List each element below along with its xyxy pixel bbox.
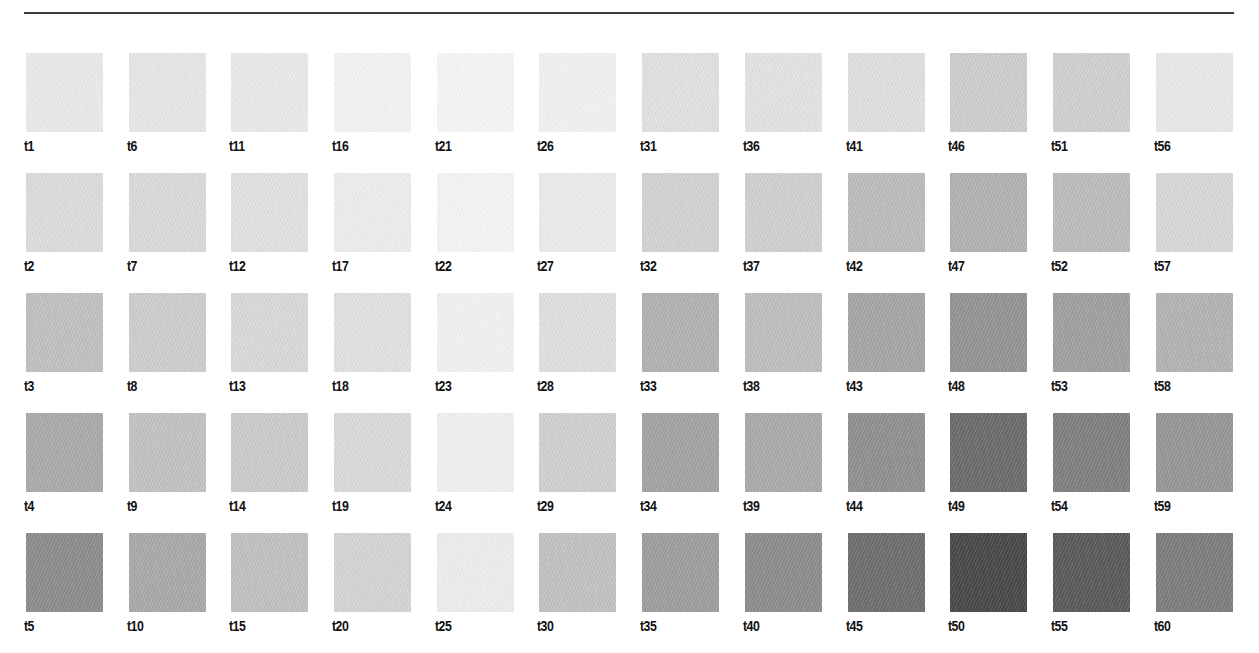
swatch-label: t9 [127,497,137,514]
swatch-label: t58 [1154,377,1170,394]
color-swatch [1053,533,1130,612]
color-swatch [437,293,514,372]
swatch-cell: t44 [848,413,950,533]
color-swatch [26,53,103,132]
swatch-grid: t1t6t11t16t21t26t31t36t41t46t51t56t2t7t1… [26,53,1258,653]
swatch-label: t4 [24,497,34,514]
swatch-label: t29 [537,497,553,514]
swatch-label: t51 [1051,137,1067,154]
color-swatch [950,413,1027,492]
swatch-cell: t7 [129,173,231,293]
swatch-label: t37 [743,257,759,274]
color-swatch [1156,293,1233,372]
color-swatch [129,173,206,252]
swatch-label: t33 [640,377,656,394]
color-swatch [745,293,822,372]
swatch-label: t12 [229,257,245,274]
swatch-cell: t10 [129,533,231,653]
swatch-cell: t39 [745,413,847,533]
swatch-label: t32 [640,257,656,274]
swatch-cell: t3 [26,293,128,413]
color-swatch [848,533,925,612]
swatch-cell: t48 [950,293,1052,413]
swatch-cell: t4 [26,413,128,533]
color-swatch [1053,293,1130,372]
swatch-label: t8 [127,377,137,394]
color-swatch [1156,53,1233,132]
swatch-label: t50 [948,617,964,634]
swatch-cell: t37 [745,173,847,293]
swatch-cell: t22 [437,173,539,293]
swatch-label: t19 [332,497,348,514]
color-swatch [437,53,514,132]
swatch-label: t57 [1154,257,1170,274]
color-swatch [539,53,616,132]
swatch-cell: t58 [1156,293,1258,413]
swatch-label: t30 [537,617,553,634]
swatch-cell: t46 [950,53,1052,173]
swatch-cell: t1 [26,53,128,173]
swatch-label: t40 [743,617,759,634]
color-swatch [539,533,616,612]
color-swatch [539,173,616,252]
color-swatch [26,293,103,372]
color-swatch [950,293,1027,372]
swatch-label: t24 [435,497,451,514]
swatch-label: t52 [1051,257,1067,274]
color-swatch [642,413,719,492]
color-swatch [642,293,719,372]
color-swatch [1156,413,1233,492]
swatch-label: t43 [846,377,862,394]
swatch-label: t49 [948,497,964,514]
swatch-cell: t35 [642,533,744,653]
swatch-label: t22 [435,257,451,274]
swatch-cell: t36 [745,53,847,173]
swatch-label: t2 [24,257,34,274]
swatch-cell: t5 [26,533,128,653]
swatch-label: t5 [24,617,34,634]
color-swatch [129,413,206,492]
color-swatch [950,173,1027,252]
swatch-cell: t33 [642,293,744,413]
swatch-label: t38 [743,377,759,394]
color-swatch [437,533,514,612]
swatch-cell: t57 [1156,173,1258,293]
swatch-cell: t18 [334,293,436,413]
color-swatch [642,53,719,132]
swatch-cell: t60 [1156,533,1258,653]
color-swatch [231,533,308,612]
swatch-label: t20 [332,617,348,634]
color-swatch [745,53,822,132]
swatch-label: t59 [1154,497,1170,514]
color-swatch [848,53,925,132]
swatch-cell: t17 [334,173,436,293]
color-swatch [334,173,411,252]
color-swatch [1053,173,1130,252]
color-swatch [950,53,1027,132]
swatch-cell: t32 [642,173,744,293]
swatch-cell: t55 [1053,533,1155,653]
color-swatch [26,413,103,492]
swatch-cell: t31 [642,53,744,173]
swatch-cell: t59 [1156,413,1258,533]
color-swatch [334,53,411,132]
swatch-label: t21 [435,137,451,154]
swatch-label: t18 [332,377,348,394]
color-swatch [231,173,308,252]
swatch-cell: t45 [848,533,950,653]
swatch-cell: t20 [334,533,436,653]
color-swatch [539,293,616,372]
color-swatch [745,533,822,612]
swatch-label: t31 [640,137,656,154]
swatch-label: t17 [332,257,348,274]
color-swatch [231,413,308,492]
swatch-cell: t21 [437,53,539,173]
swatch-label: t23 [435,377,451,394]
swatch-cell: t49 [950,413,1052,533]
swatch-label: t3 [24,377,34,394]
swatch-label: t48 [948,377,964,394]
swatch-cell: t26 [539,53,641,173]
swatch-cell: t16 [334,53,436,173]
color-swatch [950,533,1027,612]
color-swatch [26,173,103,252]
